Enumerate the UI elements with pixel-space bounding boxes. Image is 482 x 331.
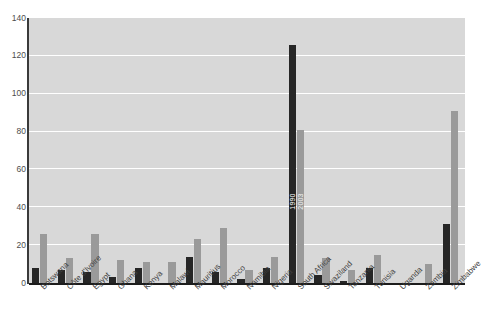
x-axis-tick-labels: BotswanaCôte d'IvoireEgyptGhanaKenyaMala… <box>29 285 465 331</box>
bar-2003[interactable] <box>451 111 458 283</box>
y-axis-line <box>27 18 29 284</box>
bar-group <box>443 18 465 283</box>
bar-2003[interactable] <box>220 228 227 283</box>
bar-2003[interactable] <box>40 234 47 283</box>
chart-title <box>0 0 472 3</box>
bar-group <box>340 18 366 283</box>
y-tick-label: 60 <box>2 165 26 174</box>
bar-group <box>212 18 238 283</box>
y-axis-tick-labels: 020406080100120140 <box>0 0 26 331</box>
y-tick-label: 120 <box>2 51 26 60</box>
bar-group <box>186 18 212 283</box>
y-tick-label: 20 <box>2 241 26 250</box>
y-tick-label: 40 <box>2 203 26 212</box>
bar-1990[interactable]: 1990 <box>289 45 296 284</box>
bar-group <box>135 18 161 283</box>
bar-group <box>58 18 84 283</box>
bar-group <box>391 18 417 283</box>
y-tick-label: 80 <box>2 127 26 136</box>
bar-group <box>32 18 58 283</box>
y-tick-label: 0 <box>2 279 26 288</box>
series-label-2003: 2003 <box>297 193 304 209</box>
plot-area: 19902003 <box>29 18 465 283</box>
bar-group <box>417 18 443 283</box>
y-tick-label: 100 <box>2 89 26 98</box>
y-tick-label: 140 <box>2 14 26 23</box>
bar-group <box>237 18 263 283</box>
bar-1990[interactable] <box>32 268 39 283</box>
bar-group <box>109 18 135 283</box>
bar-group <box>83 18 109 283</box>
bar-group <box>314 18 340 283</box>
bar-group <box>160 18 186 283</box>
bar-group: 19902003 <box>289 18 315 283</box>
series-label-1990: 1990 <box>289 193 296 209</box>
bar-group <box>366 18 392 283</box>
bar-2003[interactable]: 2003 <box>297 130 304 283</box>
bar-group <box>263 18 289 283</box>
